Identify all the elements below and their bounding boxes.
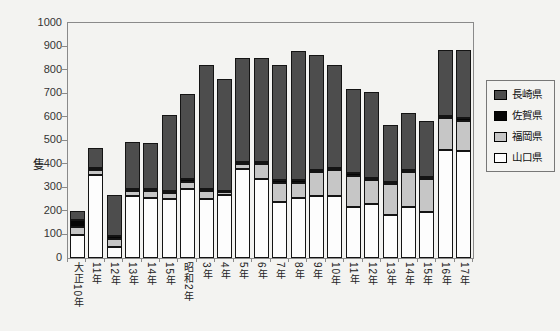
y-axis-tick [61, 140, 68, 141]
bar-segment-saga [419, 177, 434, 179]
y-axis-tick [61, 163, 68, 164]
bar-segment-yamaguchi [70, 235, 85, 259]
bar-segment-saga [456, 118, 471, 120]
x-axis-tick [270, 258, 271, 262]
bar-1 [70, 211, 85, 258]
x-axis-label: 12年 [365, 262, 380, 286]
legend-label: 長崎県 [512, 89, 542, 100]
bar-17 [364, 92, 379, 258]
bar-22 [456, 50, 471, 258]
y-tick-label: 700 [18, 87, 62, 98]
x-axis-label: 13年 [125, 262, 140, 286]
y-axis-tick [61, 46, 68, 47]
bar-7 [180, 93, 195, 258]
stacked-bar-chart: 隻 長崎県佐賀県福岡県山口県 0100200300400500600700800… [0, 0, 560, 331]
y-tick-label: 800 [18, 64, 62, 75]
bar-3 [107, 194, 122, 258]
bar-segment-yamaguchi [125, 196, 140, 258]
x-axis-tick [380, 258, 381, 262]
bar-21 [438, 50, 453, 258]
x-axis-tick [288, 258, 289, 262]
x-axis-tick [122, 258, 123, 262]
x-axis-label: 5年 [236, 262, 251, 280]
bar-segment-yamaguchi [309, 196, 324, 258]
legend-swatch-nagasaki [494, 90, 507, 100]
bar-segment-nagasaki [419, 121, 434, 177]
y-tick-label: 900 [18, 40, 62, 51]
bar-segment-saga [438, 116, 453, 118]
bar-segment-nagasaki [383, 125, 398, 181]
bar-segment-nagasaki [346, 89, 361, 174]
bar-segment-nagasaki [327, 65, 342, 167]
bar-segment-fukuoka [438, 118, 453, 150]
bar-segment-fukuoka [272, 183, 287, 202]
bar-10 [235, 58, 250, 258]
bar-segment-saga [180, 179, 195, 181]
x-axis-label: 15年 [162, 262, 177, 286]
x-axis-label: 13年 [383, 262, 398, 286]
bar-segment-yamaguchi [327, 196, 342, 258]
bar-segment-saga [162, 191, 177, 193]
y-axis-tick [61, 234, 68, 235]
bar-segment-saga [327, 168, 342, 170]
bar-segment-yamaguchi [162, 199, 177, 258]
y-tick-label: 100 [18, 228, 62, 239]
plot-area [67, 22, 474, 259]
x-axis-label: 11年 [346, 262, 361, 285]
bar-segment-saga [199, 189, 214, 191]
legend-label: 佐賀県 [512, 110, 542, 121]
y-tick-label: 500 [18, 134, 62, 145]
y-axis-tick [61, 187, 68, 188]
x-axis-label: 9年 [310, 262, 325, 280]
bar-segment-saga [125, 189, 140, 191]
bar-segment-yamaguchi [419, 212, 434, 258]
bar-segment-yamaguchi [346, 207, 361, 258]
bar-segment-nagasaki [162, 115, 177, 191]
bar-segment-nagasaki [143, 143, 158, 189]
x-axis-tick [472, 258, 473, 262]
x-axis-label: 大正10年 [70, 262, 85, 308]
bar-segment-saga [272, 180, 287, 182]
bar-segment-nagasaki [199, 65, 214, 188]
x-axis-tick [141, 258, 142, 262]
x-axis-tick [306, 258, 307, 262]
bar-segment-saga [291, 180, 306, 182]
x-axis-label: 11年 [89, 262, 104, 285]
bar-segment-nagasaki [107, 195, 122, 236]
bar-segment-fukuoka [346, 176, 361, 208]
bar-segment-saga [88, 168, 103, 170]
bar-16 [346, 88, 361, 258]
bar-segment-fukuoka [107, 239, 122, 247]
x-axis-tick [159, 258, 160, 262]
bar-segment-fukuoka [327, 170, 342, 196]
bar-segment-fukuoka [364, 180, 379, 204]
y-tick-label: 0 [18, 252, 62, 263]
bar-segment-fukuoka [217, 192, 232, 194]
bar-12 [272, 65, 287, 258]
legend-item-yamaguchi: 山口県 [494, 152, 554, 163]
bar-segment-yamaguchi [235, 169, 250, 258]
legend: 長崎県佐賀県福岡県山口県 [486, 80, 555, 172]
bar-15 [327, 65, 342, 258]
bar-segment-fukuoka [254, 164, 269, 179]
bar-segment-saga [309, 170, 324, 172]
bar-segment-nagasaki [235, 58, 250, 161]
y-axis-tick [61, 210, 68, 211]
x-axis-label: 4年 [217, 262, 232, 280]
bar-segment-fukuoka [125, 191, 140, 196]
bar-segment-yamaguchi [180, 189, 195, 258]
x-axis-label: 10年 [328, 262, 343, 286]
bar-segment-fukuoka [383, 184, 398, 215]
x-axis-label: 3年 [199, 262, 214, 280]
bar-6 [162, 114, 177, 258]
bar-segment-saga [143, 189, 158, 191]
bar-11 [254, 58, 269, 258]
bar-segment-nagasaki [217, 79, 232, 191]
bar-segment-yamaguchi [364, 204, 379, 258]
x-axis-tick [233, 258, 234, 262]
bar-segment-fukuoka [143, 191, 158, 198]
bar-segment-nagasaki [401, 113, 416, 169]
bar-18 [383, 125, 398, 258]
bar-segment-nagasaki [364, 92, 379, 178]
bar-segment-nagasaki [70, 211, 85, 220]
